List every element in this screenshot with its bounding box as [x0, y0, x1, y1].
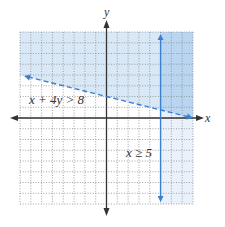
y-axis-label: y — [104, 6, 109, 18]
y-axis-arrow-down-icon — [104, 208, 110, 216]
shade-vertical-region — [161, 110, 193, 204]
inequality-graph — [0, 0, 225, 227]
x-axis-arrow-right-icon — [196, 115, 204, 121]
y-axis-arrow-up-icon — [104, 20, 110, 28]
x-axis-label: x — [205, 112, 210, 124]
inequality-label-line: x + 4y > 8 — [29, 93, 84, 106]
inequality-label-vertical: x ≥ 5 — [126, 146, 152, 159]
x-axis-arrow-left-icon — [10, 115, 18, 121]
